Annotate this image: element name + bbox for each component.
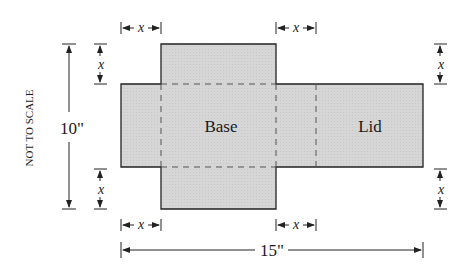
cut-label: x [137,20,145,35]
lid-label: Lid [358,117,382,136]
cut-label: x [292,217,300,232]
cut-label: x [437,182,445,197]
height-label: 10" [60,119,84,138]
width-label: 15" [260,241,284,260]
cut-label: x [437,57,445,72]
cut-label: x [292,20,300,35]
not-to-scale-note: NOT TO SCALE [23,89,35,166]
cut-label: x [97,182,105,197]
cut-label: x [137,217,145,232]
base-label: Base [204,117,237,136]
box-net-diagram: Base Lid NOT TO SCALE 10" 15" x x x [0,0,467,277]
cut-label: x [97,57,105,72]
